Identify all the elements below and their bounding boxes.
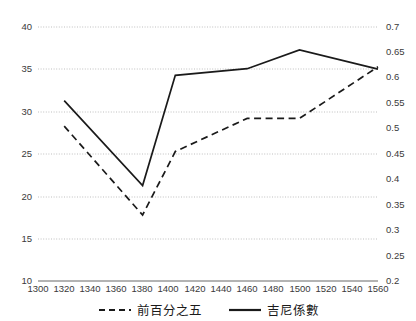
legend-label-gini: 吉尼係數: [267, 300, 319, 319]
chart-container: 40 35 30 25 20 15 10 0.7 0.65 0.6 0.55 0…: [0, 0, 416, 321]
chart-legend: 前百分之五 吉尼係數: [0, 300, 416, 319]
legend-label-top5: 前百分之五: [137, 300, 202, 319]
legend-dashed-swatch-icon: [98, 305, 132, 315]
plot-area: [0, 0, 416, 321]
gridlines: [38, 27, 378, 239]
legend-item-gini[interactable]: 吉尼係數: [228, 300, 319, 319]
series-line-gini: [64, 50, 378, 186]
legend-item-top5[interactable]: 前百分之五: [98, 300, 202, 319]
series-line-top5: [64, 67, 378, 215]
legend-solid-swatch-icon: [228, 305, 262, 315]
